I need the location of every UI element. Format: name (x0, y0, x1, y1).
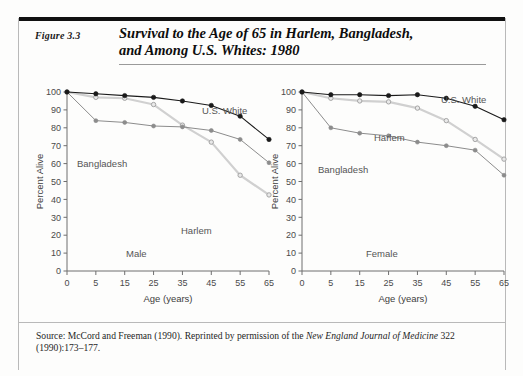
figure-page: Figure 3.3 Survival to the Age of 65 in … (0, 0, 523, 376)
x-tick-label: 65 (499, 278, 509, 288)
data-point (502, 157, 506, 161)
x-tick-label: 35 (412, 278, 422, 288)
x-tick-label: 15 (120, 278, 130, 288)
y-tick-label: 10 (51, 248, 61, 258)
series-label-u-s-white: U.S. White (202, 105, 247, 116)
x-tick-label: 15 (355, 278, 365, 288)
source-note: Source: McCord and Freeman (1990). Repri… (36, 330, 488, 355)
data-point (151, 95, 155, 99)
x-tick-label: 45 (441, 278, 451, 288)
x-tick-label: 35 (177, 278, 187, 288)
data-point (300, 90, 304, 94)
data-point (386, 93, 390, 97)
panel-label: Male (126, 248, 147, 259)
data-point (180, 125, 184, 129)
series-label-bangladesh: Bangladesh (318, 164, 368, 175)
source-prefix: Source: McCord and Freeman (1990). Repri… (36, 330, 306, 341)
y-tick-label: 40 (286, 195, 296, 205)
series-label-bangladesh: Bangladesh (77, 158, 127, 169)
y-tick-label: 20 (286, 230, 296, 240)
data-point (180, 99, 184, 103)
x-tick-label: 45 (206, 278, 216, 288)
charts-container: 010203040506070809010005152535455565Age … (19, 84, 505, 316)
y-tick-label: 50 (51, 177, 61, 187)
series-label-harlem: Harlem (374, 132, 405, 143)
panel-label: Female (366, 248, 398, 259)
data-point (151, 102, 155, 106)
data-point (502, 118, 506, 122)
y-tick-label: 30 (51, 213, 61, 223)
data-point (358, 131, 362, 135)
y-axis-label: Percent Alive (34, 154, 45, 209)
y-tick-label: 70 (286, 141, 296, 151)
data-point (209, 140, 213, 144)
y-tick-label: 0 (56, 266, 61, 276)
chart-panel-female: 010203040506070809010005152535455565Age … (266, 84, 509, 316)
x-tick-label: 5 (93, 278, 98, 288)
y-axis-label: Percent Alive (269, 154, 280, 209)
y-tick-label: 20 (51, 230, 61, 240)
y-tick-label: 100 (46, 87, 61, 97)
data-point (329, 126, 333, 130)
data-point (358, 92, 362, 96)
figure-header: Figure 3.3 Survival to the Age of 65 in … (19, 21, 505, 81)
data-point (152, 124, 156, 128)
x-axis-label: Age (years) (378, 293, 427, 304)
y-tick-label: 100 (281, 87, 296, 97)
y-tick-label: 10 (286, 248, 296, 258)
data-point (358, 99, 362, 103)
data-point (502, 173, 506, 177)
x-tick-label: 55 (470, 278, 480, 288)
figure-title-line2: and Among U.S. Whites: 1980 (119, 42, 300, 58)
y-tick-label: 60 (51, 159, 61, 169)
data-point (238, 137, 242, 141)
data-point (415, 92, 419, 96)
x-tick-label: 25 (384, 278, 394, 288)
data-point (415, 140, 419, 144)
y-tick-label: 60 (286, 159, 296, 169)
data-point (238, 173, 242, 177)
male-survival-chart: 010203040506070809010005152535455565Age … (31, 84, 274, 316)
data-point (329, 92, 333, 96)
y-tick-label: 80 (51, 123, 61, 133)
figure-number: Figure 3.3 (35, 30, 80, 41)
source-journal: New England Journal of Medicine (306, 330, 438, 341)
data-point (209, 128, 213, 132)
x-tick-label: 0 (64, 278, 69, 288)
female-survival-chart: 010203040506070809010005152535455565Age … (266, 84, 509, 316)
chart-panel-male: 010203040506070809010005152535455565Age … (31, 84, 274, 316)
data-point (473, 137, 477, 141)
title-rule (119, 64, 486, 65)
x-tick-label: 0 (299, 278, 304, 288)
data-point (415, 106, 419, 110)
y-tick-label: 50 (286, 177, 296, 187)
figure-title: Survival to the Age of 65 in Harlem, Ban… (119, 25, 489, 58)
x-tick-label: 5 (328, 278, 333, 288)
data-point (65, 90, 69, 94)
figure-title-line1: Survival to the Age of 65 in Harlem, Ban… (119, 25, 413, 41)
y-tick-label: 0 (291, 266, 296, 276)
y-tick-label: 90 (51, 105, 61, 115)
data-point (473, 148, 477, 152)
x-tick-label: 25 (149, 278, 159, 288)
y-tick-label: 80 (286, 123, 296, 133)
series-label-u-s-white: U.S. White (441, 94, 486, 105)
source-rule (19, 322, 505, 323)
data-point (444, 118, 448, 122)
y-tick-label: 70 (51, 141, 61, 151)
y-tick-label: 30 (286, 213, 296, 223)
series-label-harlem: Harlem (181, 225, 212, 236)
data-point (94, 119, 98, 123)
y-tick-label: 90 (286, 105, 296, 115)
data-point (386, 100, 390, 104)
x-axis-label: Age (years) (143, 293, 192, 304)
y-tick-label: 40 (51, 195, 61, 205)
data-point (123, 93, 127, 97)
x-tick-label: 55 (235, 278, 245, 288)
data-point (94, 92, 98, 96)
series-line-bangladesh (67, 92, 269, 163)
data-point (123, 120, 127, 124)
data-point (444, 144, 448, 148)
